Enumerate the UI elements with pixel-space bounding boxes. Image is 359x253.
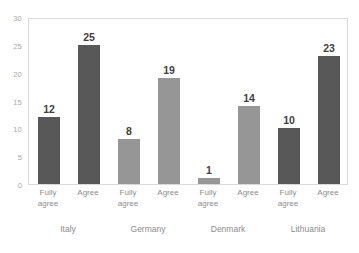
bar[interactable] xyxy=(158,78,180,184)
bar-data-label: 12 xyxy=(29,103,69,115)
bar-data-label: 1 xyxy=(189,164,229,176)
bar-data-label: 14 xyxy=(229,92,269,104)
y-axis: 051015202530 xyxy=(0,18,26,185)
bar[interactable] xyxy=(238,106,260,184)
bar-data-label: 25 xyxy=(69,31,109,43)
y-axis-tick-label: 10 xyxy=(13,125,22,134)
x-axis-tick-label-line2: agree xyxy=(28,199,68,210)
y-axis-tick-label: 30 xyxy=(13,14,22,23)
y-axis-tick-label: 20 xyxy=(13,69,22,78)
x-axis-tick-label-line1: Agree xyxy=(228,188,268,199)
bar[interactable] xyxy=(118,139,140,184)
bar-data-label: 8 xyxy=(109,125,149,137)
group-axis-label: Italy xyxy=(28,224,108,234)
bar-slot: 10 xyxy=(269,19,309,184)
x-axis-tick-label: Fullyagree xyxy=(188,188,228,209)
x-axis-tick-label: Agree xyxy=(68,188,108,199)
x-axis-tick-label-line2: agree xyxy=(268,199,308,210)
y-axis-tick-label: 0 xyxy=(18,181,22,190)
group-axis-label: Denmark xyxy=(188,224,268,234)
x-axis-tick-label-line1: Agree xyxy=(148,188,188,199)
x-axis-tick-label: Fullyagree xyxy=(108,188,148,209)
bars-layer: 12258191141023 xyxy=(29,19,347,184)
x-axis-tick-label: Agree xyxy=(148,188,188,199)
bar[interactable] xyxy=(278,128,300,184)
bar-slot: 1 xyxy=(189,19,229,184)
x-axis-tick-label-line1: Fully xyxy=(268,188,308,199)
x-axis-tick-label: Agree xyxy=(308,188,348,199)
x-axis: FullyagreeAgreeFullyagreeAgreeFullyagree… xyxy=(28,188,348,218)
x-axis-tick-label-line1: Fully xyxy=(188,188,228,199)
bar[interactable] xyxy=(38,117,60,184)
plot-area: 12258191141023 xyxy=(28,18,348,185)
bar-slot: 8 xyxy=(109,19,149,184)
bar-slot: 14 xyxy=(229,19,269,184)
bar[interactable] xyxy=(78,45,100,184)
bar-data-label: 23 xyxy=(309,42,349,54)
x-axis-tick-label: Fullyagree xyxy=(28,188,68,209)
bar-chart: 051015202530 12258191141023 FullyagreeAg… xyxy=(0,0,359,253)
x-axis-tick-label-line1: Agree xyxy=(308,188,348,199)
group-axis-label: Germany xyxy=(108,224,188,234)
x-axis-tick-label-line1: Agree xyxy=(68,188,108,199)
bar-slot: 25 xyxy=(69,19,109,184)
bar-slot: 19 xyxy=(149,19,189,184)
bar[interactable] xyxy=(198,178,220,184)
bar-slot: 23 xyxy=(309,19,349,184)
bar-slot: 12 xyxy=(29,19,69,184)
y-axis-tick-label: 5 xyxy=(18,153,22,162)
y-axis-tick-label: 25 xyxy=(13,41,22,50)
bar-data-label: 19 xyxy=(149,64,189,76)
x-axis-tick-label-line2: agree xyxy=(108,199,148,210)
group-axis: ItalyGermanyDenmarkLithuania xyxy=(28,224,348,242)
bar-data-label: 10 xyxy=(269,114,309,126)
y-axis-tick-label: 15 xyxy=(13,97,22,106)
x-axis-tick-label-line2: agree xyxy=(188,199,228,210)
x-axis-tick-label-line1: Fully xyxy=(28,188,68,199)
bar[interactable] xyxy=(318,56,340,184)
group-axis-label: Lithuania xyxy=(268,224,348,234)
x-axis-tick-label: Agree xyxy=(228,188,268,199)
x-axis-tick-label-line1: Fully xyxy=(108,188,148,199)
x-axis-tick-label: Fullyagree xyxy=(268,188,308,209)
